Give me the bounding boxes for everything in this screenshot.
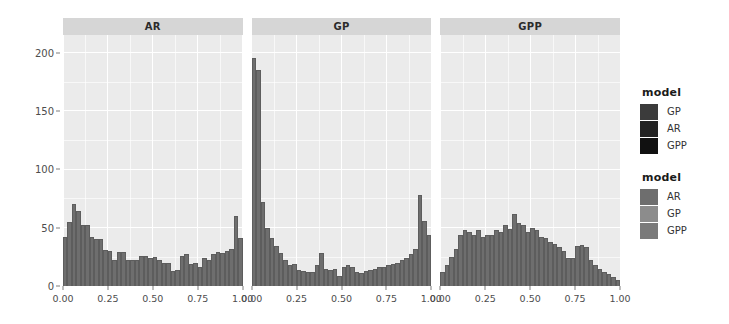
y-axis-tick-label: 100 (35, 164, 54, 175)
histogram-bars (252, 35, 432, 286)
x-axis-tick-mark (386, 286, 387, 290)
legend-item[interactable]: GP (640, 205, 729, 222)
x-axis-tick-label: 0.25 (286, 293, 307, 304)
x-axis-tick-mark (197, 286, 198, 290)
y-axis-tick-mark (56, 286, 60, 287)
y-axis-tick-mark (56, 110, 60, 111)
legend-item[interactable]: GPP (640, 222, 729, 239)
x-axis-tick-label: 0.50 (331, 293, 352, 304)
legend-item[interactable]: AR (640, 188, 729, 205)
x-axis-tick-mark (485, 286, 486, 290)
legend-item[interactable]: AR (640, 120, 729, 137)
histogram-bars (440, 35, 620, 286)
legend-item-label: GPP (667, 140, 687, 151)
legend-swatch (640, 121, 658, 137)
facet-panel-ar: AR (63, 18, 243, 286)
legend-container: modelGPARGPPmodelARGPGPP (640, 86, 729, 256)
x-axis-tick-mark (440, 286, 441, 290)
x-axis-tick-label: 0.75 (187, 293, 208, 304)
x-axis-tick-label: 1.00 (609, 293, 630, 304)
legend-item-label: GPP (667, 225, 687, 236)
x-axis: 0.000.250.500.751.000.000.250.500.751.00… (63, 286, 620, 310)
x-axis-tick-label: 0.75 (376, 293, 397, 304)
x-axis-tick-label: 0.75 (565, 293, 586, 304)
y-axis-tick-label: 0 (48, 281, 54, 292)
x-axis-tick-mark (107, 286, 108, 290)
x-axis-tick-mark (620, 286, 621, 290)
legend-item[interactable]: GP (640, 103, 729, 120)
x-axis-tick-mark (152, 286, 153, 290)
legend-swatch (640, 104, 658, 120)
x-axis-tick-label: 0.25 (475, 293, 496, 304)
x-axis-tick-mark (341, 286, 342, 290)
facet-plot-area (440, 35, 620, 286)
y-axis-tick-label: 50 (41, 222, 54, 233)
x-axis-tick-mark (431, 286, 432, 290)
legend-title: model (642, 86, 729, 99)
y-axis-tick-label: 200 (35, 47, 54, 58)
facet-panel-gpp: GPP (440, 18, 620, 286)
histogram-bar (238, 238, 242, 286)
y-axis-tick-mark (56, 52, 60, 53)
x-axis-tick-mark (63, 286, 64, 290)
histogram-bars (63, 35, 243, 286)
legend-swatch (640, 223, 658, 239)
x-axis-tick-mark (251, 286, 252, 290)
legend-item-label: GP (667, 208, 681, 219)
x-axis-tick-label: 0.00 (430, 293, 451, 304)
facet-plot-area (252, 35, 432, 286)
legend-swatch (640, 189, 658, 205)
x-axis-tick-label: 0.00 (52, 293, 73, 304)
legend-item[interactable]: GPP (640, 137, 729, 154)
facet-panels: ARGPGPP (63, 18, 620, 286)
x-axis-tick-mark (296, 286, 297, 290)
legend-swatch (640, 206, 658, 222)
x-axis-group: 0.000.250.500.751.00 (252, 286, 432, 310)
x-axis-tick-label: 0.00 (241, 293, 262, 304)
x-axis-tick-label: 0.50 (142, 293, 163, 304)
facet-plot: 050100150200 ARGPGPP 0.000.250.500.751.0… (0, 0, 630, 324)
legend-swatch (640, 138, 658, 154)
x-axis-tick-mark (575, 286, 576, 290)
legend-item-label: AR (667, 191, 681, 202)
y-axis-tick-label: 150 (35, 105, 54, 116)
legend-title: model (642, 171, 729, 184)
x-axis-tick-label: 0.50 (520, 293, 541, 304)
legend: modelARGPGPP (640, 171, 729, 239)
x-axis-group: 0.000.250.500.751.00 (440, 286, 620, 310)
x-axis-tick-mark (530, 286, 531, 290)
y-axis: 050100150200 (0, 0, 62, 324)
x-axis-group: 0.000.250.500.751.00 (63, 286, 243, 310)
y-axis-tick-mark (56, 227, 60, 228)
facet-strip-label: AR (63, 18, 243, 35)
facet-strip-label: GPP (440, 18, 620, 35)
legend: modelGPARGPP (640, 86, 729, 154)
legend-item-label: AR (667, 123, 681, 134)
facet-plot-area (63, 35, 243, 286)
x-axis-tick-label: 0.25 (97, 293, 118, 304)
facet-strip-label: GP (252, 18, 432, 35)
legend-item-label: GP (667, 106, 681, 117)
facet-panel-gp: GP (252, 18, 432, 286)
histogram-bar (427, 235, 431, 286)
x-axis-tick-mark (242, 286, 243, 290)
y-axis-tick-mark (56, 169, 60, 170)
